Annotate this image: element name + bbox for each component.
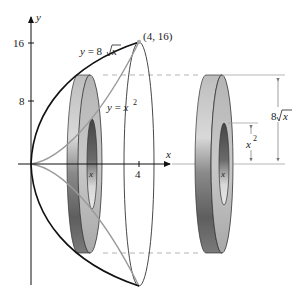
point-label: (4, 16) <box>143 30 173 43</box>
washer-method-diagram: y x 16 8 4 y = 8 x y = x 2 (4, 16) x x 8… <box>0 0 301 296</box>
washer-in-situ-x-label: x <box>88 169 93 179</box>
point-4-16-marker <box>137 40 141 44</box>
outer-curve-label: y = 8 x <box>79 45 121 57</box>
svg-text:x: x <box>282 110 288 122</box>
tick-label-8: 8 <box>19 95 25 107</box>
tick-label-16: 16 <box>13 37 25 49</box>
svg-text:2: 2 <box>253 134 257 143</box>
x-axis-label: x <box>165 148 171 160</box>
washer-standalone: x <box>195 75 233 253</box>
outer-radius-label: 8 x <box>270 107 294 122</box>
washer-standalone-x-label: x <box>220 169 225 179</box>
inner-curve-label: y = x 2 <box>106 98 137 113</box>
y-axis-label: y <box>35 11 41 23</box>
tick-label-4: 4 <box>135 168 141 180</box>
svg-text:x: x <box>245 138 251 150</box>
svg-text:y = 8: y = 8 <box>79 45 103 57</box>
svg-text:8: 8 <box>271 110 277 122</box>
svg-text:y = x: y = x <box>106 101 129 113</box>
svg-text:x: x <box>111 45 117 57</box>
inner-radius-label: x 2 <box>245 134 261 150</box>
svg-text:2: 2 <box>133 98 137 107</box>
